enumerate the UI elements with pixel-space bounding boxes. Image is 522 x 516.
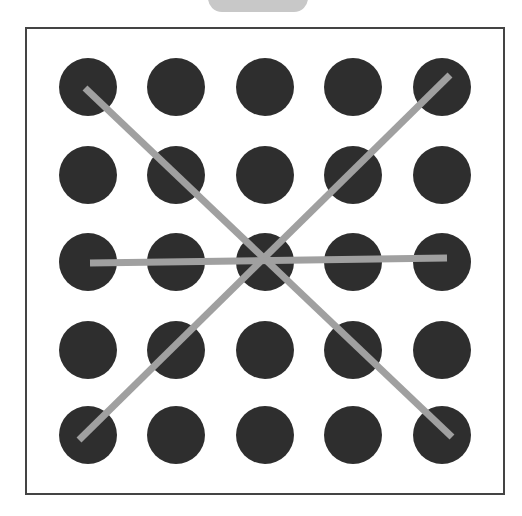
- grid-dot-r3-c1[interactable]: [147, 321, 205, 379]
- dot-grid-canvas: [0, 0, 522, 516]
- pattern-line-horizontal-middle-row: [90, 258, 447, 263]
- grid-dot-r4-c4[interactable]: [413, 406, 471, 464]
- grid-dot-r3-c0[interactable]: [59, 321, 117, 379]
- grid-dot-r4-c1[interactable]: [147, 406, 205, 464]
- grid-dot-r1-c4[interactable]: [413, 146, 471, 204]
- grid-dot-r0-c2[interactable]: [236, 58, 294, 116]
- grid-dot-r0-c1[interactable]: [147, 58, 205, 116]
- grid-dot-r2-c4[interactable]: [413, 233, 471, 291]
- grid-dot-r3-c4[interactable]: [413, 321, 471, 379]
- grid-dot-r1-c2[interactable]: [236, 146, 294, 204]
- grid-dot-r4-c2[interactable]: [236, 406, 294, 464]
- grid-dot-r4-c3[interactable]: [324, 406, 382, 464]
- grid-dot-r1-c0[interactable]: [59, 146, 117, 204]
- grid-dot-r3-c3[interactable]: [324, 321, 382, 379]
- grid-dot-r3-c2[interactable]: [236, 321, 294, 379]
- grid-dot-r0-c3[interactable]: [324, 58, 382, 116]
